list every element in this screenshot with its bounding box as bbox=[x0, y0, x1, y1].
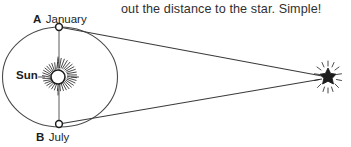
label-position-b-point: B bbox=[36, 131, 44, 143]
label-position-b: B July bbox=[36, 127, 69, 145]
sun-disc bbox=[51, 70, 65, 84]
sight-line-a bbox=[59, 27, 322, 76]
label-position-b-month: July bbox=[49, 131, 69, 143]
distant-star-icon bbox=[315, 61, 342, 93]
label-position-a-point: A bbox=[33, 13, 41, 25]
label-sun: Sun bbox=[16, 69, 38, 81]
parallax-figure: out the distance to the star. Simple! bbox=[0, 0, 351, 147]
label-position-a: A January bbox=[33, 9, 87, 27]
label-position-a-month: January bbox=[46, 13, 87, 25]
sight-line-b bbox=[59, 79, 322, 124]
